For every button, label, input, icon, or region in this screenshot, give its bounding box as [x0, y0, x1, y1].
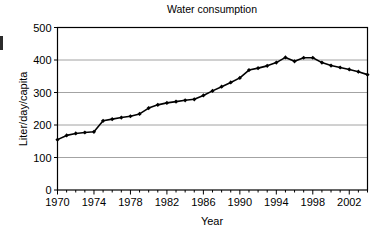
- data-point-marker: [110, 117, 114, 121]
- water-consumption-chart: 0100200300400500 19701974197819821986199…: [0, 0, 383, 233]
- plot-frame: [58, 28, 368, 191]
- data-point-marker: [165, 101, 169, 105]
- chart-title: Water consumption: [167, 3, 257, 15]
- x-tick-label: 1970: [45, 196, 69, 208]
- data-point-marker: [74, 131, 78, 135]
- data-point-marker: [183, 98, 187, 102]
- x-axis-title: Year: [201, 215, 224, 227]
- y-tick-labels-group: 0100200300400500: [33, 22, 51, 197]
- y-tick-label: 0: [45, 184, 51, 196]
- x-tick-labels-group: 197019741978198219861990199419982002: [45, 196, 361, 208]
- data-point-marker: [156, 103, 160, 107]
- data-point-marker: [365, 73, 369, 77]
- x-tick-label: 1994: [264, 196, 288, 208]
- y-tick-label: 400: [33, 54, 51, 66]
- page-edge-artifact: [0, 36, 3, 50]
- y-tick-label: 300: [33, 87, 51, 99]
- gridlines-group: [58, 60, 368, 158]
- data-point-marker: [329, 63, 333, 67]
- data-point-marker: [83, 130, 87, 134]
- data-point-marker: [265, 64, 269, 68]
- y-tick-label: 200: [33, 119, 51, 131]
- x-tick-label: 1982: [155, 196, 179, 208]
- chart-svg: 0100200300400500 19701974197819821986199…: [0, 0, 383, 233]
- y-axis-title: Liter/day/capita: [17, 71, 29, 146]
- y-tick-label: 100: [33, 152, 51, 164]
- x-tick-marks-group: [58, 190, 368, 195]
- data-point-marker: [356, 70, 360, 74]
- x-tick-label: 1986: [191, 196, 215, 208]
- data-point-marker: [338, 65, 342, 69]
- data-point-marker: [119, 115, 123, 119]
- x-tick-label: 1978: [118, 196, 142, 208]
- data-point-marker: [128, 114, 132, 118]
- data-point-marker: [302, 56, 306, 60]
- data-point-marker: [174, 100, 178, 104]
- data-line: [58, 57, 368, 139]
- data-markers-group: [55, 55, 369, 141]
- x-tick-label: 1998: [301, 196, 325, 208]
- x-tick-label: 1974: [82, 196, 106, 208]
- data-point-marker: [347, 67, 351, 71]
- y-tick-label: 500: [33, 22, 51, 34]
- data-point-marker: [256, 66, 260, 70]
- x-tick-label: 2002: [337, 196, 361, 208]
- x-tick-label: 1990: [228, 196, 252, 208]
